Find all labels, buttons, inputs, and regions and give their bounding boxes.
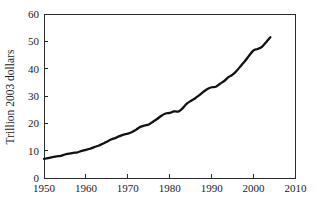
- x-tick-label: 2000: [243, 182, 266, 194]
- y-tick-label: 50: [28, 35, 40, 47]
- chart-axes: [44, 14, 296, 178]
- y-tick-label: 60: [28, 8, 40, 20]
- y-tick-label: 10: [28, 145, 40, 157]
- data-line-gdp: [44, 37, 270, 159]
- x-tick-label: 1960: [75, 182, 98, 194]
- x-tick-label: 1990: [201, 182, 224, 194]
- chart-ticks: [44, 14, 296, 178]
- x-tick-label: 2010: [285, 182, 308, 194]
- chart-tick-labels: 0102030405060195019601970198019902000201…: [28, 8, 307, 194]
- plot-frame: [44, 14, 296, 178]
- y-tick-label: 30: [28, 90, 40, 102]
- chart-series: [44, 37, 270, 159]
- x-tick-label: 1970: [117, 182, 140, 194]
- x-tick-label: 1950: [33, 182, 56, 194]
- y-tick-label: 40: [28, 63, 40, 75]
- x-tick-label: 1980: [159, 182, 182, 194]
- y-tick-label: 20: [28, 117, 40, 129]
- y-axis-title: Trillion 2003 dollars: [4, 49, 16, 144]
- line-chart: 0102030405060195019601970198019902000201…: [0, 0, 317, 209]
- chart-figure: 0102030405060195019601970198019902000201…: [0, 0, 317, 209]
